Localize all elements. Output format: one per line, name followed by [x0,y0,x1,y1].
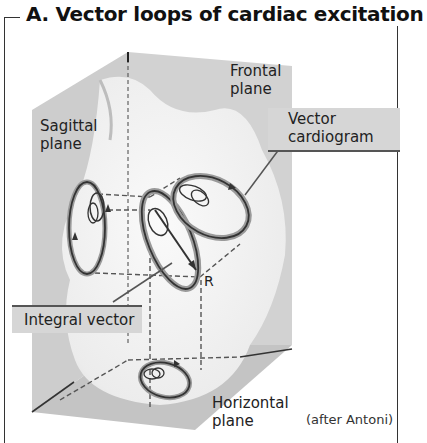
integral-vector-callout: Integral vector [12,305,142,333]
vector-cardiogram-callout: Vectorcardiogram [268,108,400,152]
frontal-plane-label: Frontalplane [230,62,281,98]
credit: (after Antoni) [306,412,393,427]
horizontal-plane-label: Horizontalplane [212,394,289,430]
r-marker: R [204,272,214,290]
sagittal-plane-label: Sagittalplane [40,117,98,153]
